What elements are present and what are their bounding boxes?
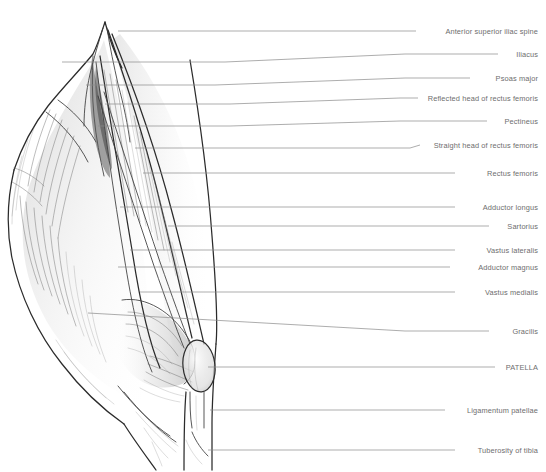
label-sartorius: Sartorius bbox=[507, 222, 538, 231]
label-iliacus: Iliacus bbox=[516, 50, 538, 59]
label-anterior-superior-iliac-spine: Anterior superior iliac spine bbox=[445, 27, 538, 36]
label-patella: PATELLA bbox=[506, 363, 538, 372]
anatomy-illustration bbox=[0, 0, 546, 472]
label-vastus-medialis: Vastus medialis bbox=[485, 288, 538, 297]
label-vastus-lateralis: Vastus lateralis bbox=[487, 246, 539, 255]
label-psoas-major: Psoas major bbox=[496, 74, 538, 83]
label-adductor-magnus: Adductor magnus bbox=[478, 263, 538, 272]
label-adductor-longus: Adductor longus bbox=[483, 203, 538, 212]
gracilis-group bbox=[118, 386, 178, 466]
thigh-shading-group bbox=[10, 24, 208, 404]
label-pectineus: Pectineus bbox=[504, 117, 538, 126]
label-gracilis: Gracilis bbox=[512, 327, 538, 336]
label-reflected-head-of-rectus-femoris: Reflected head of rectus femoris bbox=[428, 94, 538, 103]
patellar-ligament-group bbox=[186, 392, 208, 464]
label-tuberosity-of-tibia: Tuberosity of tibia bbox=[478, 446, 538, 455]
label-straight-head-of-rectus-femoris: Straight head of rectus femoris bbox=[434, 141, 538, 150]
label-ligamentum-patellae: Ligamentum patellae bbox=[467, 406, 538, 415]
label-rectus-femoris: Rectus femoris bbox=[487, 169, 538, 178]
anatomical-figure: Anterior superior iliac spine Iliacus Ps… bbox=[0, 0, 546, 472]
